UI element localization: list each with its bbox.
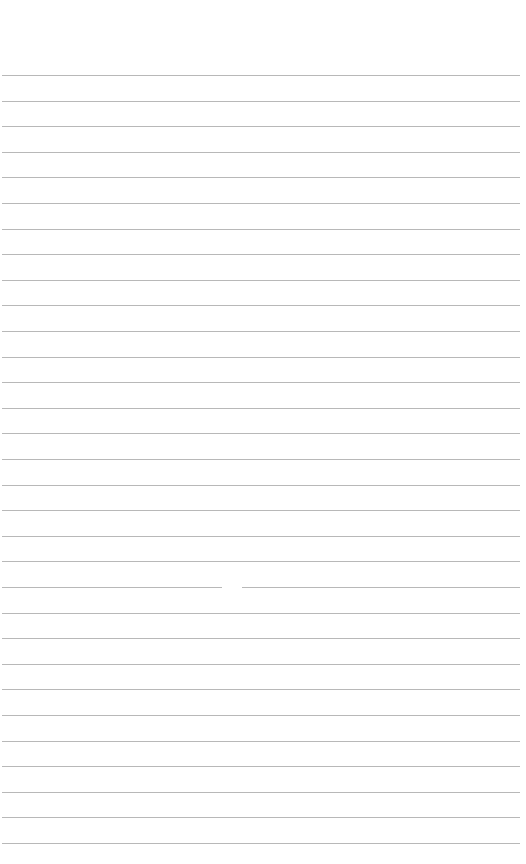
ruled-line: [2, 741, 520, 742]
ruled-line: [2, 382, 520, 383]
ruled-line: [2, 536, 520, 537]
ruled-line: [2, 587, 520, 588]
ruled-line: [2, 843, 520, 844]
ruled-line: [2, 280, 520, 281]
ruled-line: [2, 433, 520, 434]
ruled-line: [2, 689, 520, 690]
ruled-line: [2, 817, 520, 818]
ruled-line: [2, 459, 520, 460]
ruled-line: [2, 613, 520, 614]
ruled-line: [2, 561, 520, 562]
ruled-line: [2, 177, 520, 178]
ruled-line: [2, 101, 520, 102]
ruled-line: [2, 638, 520, 639]
ruled-line: [2, 331, 520, 332]
ruled-line: [2, 305, 520, 306]
ruled-line: [2, 229, 520, 230]
ruled-line: [2, 408, 520, 409]
ruled-line: [2, 510, 520, 511]
ruled-line: [2, 152, 520, 153]
ruled-line: [2, 715, 520, 716]
ruled-line: [2, 485, 520, 486]
ruled-line: [2, 792, 520, 793]
ruled-line: [2, 254, 520, 255]
ruled-line: [2, 203, 520, 204]
ruled-line: [2, 357, 520, 358]
ruled-line: [2, 664, 520, 665]
line-gap: [222, 586, 242, 589]
ruled-line: [2, 766, 520, 767]
ruled-line: [2, 126, 520, 127]
ruled-line: [2, 75, 520, 76]
